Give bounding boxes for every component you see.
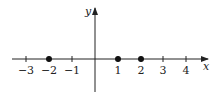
- point-2: [138, 56, 144, 62]
- y-axis-label: y: [84, 5, 92, 18]
- tick-label: −2: [41, 64, 57, 77]
- tick-label: 2: [138, 64, 145, 77]
- tick-label: 1: [115, 64, 122, 77]
- point-neg-2: [46, 56, 52, 62]
- point-1: [115, 56, 121, 62]
- tick-label: 4: [183, 64, 190, 77]
- tick-label: −3: [18, 64, 34, 77]
- tick-label: 3: [160, 64, 167, 77]
- x-axis-label: x: [203, 60, 210, 73]
- tick-label: −1: [64, 64, 80, 77]
- number-line-diagram: −3 −2 −1 1 2 3 4 x y: [0, 0, 220, 97]
